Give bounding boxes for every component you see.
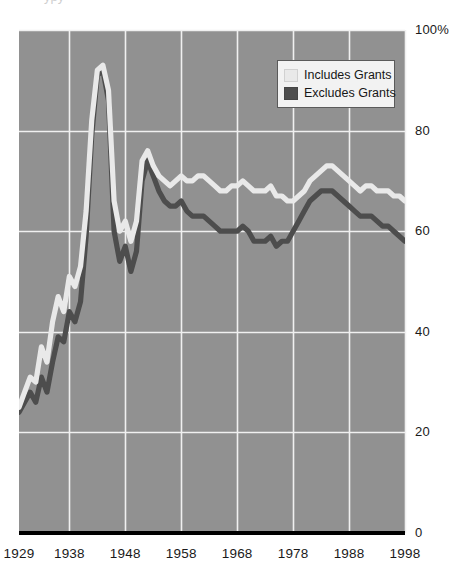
- y-axis-tick-80: 80: [415, 124, 430, 137]
- x-axis-tick-1958: 1958: [151, 547, 211, 561]
- chart-legend: Includes Grants Excludes Grants: [277, 60, 395, 108]
- x-axis-tick-1968: 1968: [207, 547, 267, 561]
- x-axis-tick-1978: 1978: [263, 547, 323, 561]
- y-axis-tick-100: 100%: [415, 23, 449, 36]
- y-axis-tick-60: 60: [415, 224, 430, 237]
- x-axis-tick-1998: 1998: [375, 547, 435, 561]
- legend-label-excludes-grants: Excludes Grants: [304, 87, 396, 100]
- y-axis-tick-0: 0: [415, 526, 422, 539]
- legend-item-includes-grants: Includes Grants: [284, 66, 388, 84]
- legend-item-excludes-grants: Excludes Grants: [284, 84, 388, 102]
- legend-label-includes-grants: Includes Grants: [304, 69, 392, 82]
- x-axis-baseline: [19, 531, 405, 535]
- x-axis-tick-1988: 1988: [319, 547, 379, 561]
- x-axis-tick-1948: 1948: [95, 547, 155, 561]
- y-axis-tick-20: 20: [415, 425, 430, 438]
- legend-swatch-includes-grants: [284, 69, 298, 82]
- y-axis-tick-40: 40: [415, 325, 430, 338]
- legend-swatch-excludes-grants: [284, 87, 298, 100]
- x-axis-tick-1938: 1938: [39, 547, 99, 561]
- chart-container: ypy 100%806040200 1929193819481958196819…: [0, 0, 451, 577]
